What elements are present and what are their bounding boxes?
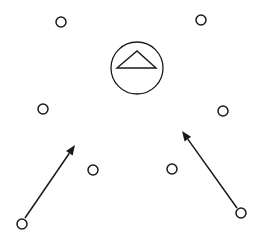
node-circle-n5 [88,165,98,175]
node-circle-n2 [196,15,206,25]
arrow-a-right [182,131,237,208]
node-circle-n8 [236,208,246,218]
arrow-shaft [188,139,237,208]
arrowhead-icon [182,131,191,141]
node-circle-n4 [218,106,228,116]
node-circle-n1 [56,17,66,27]
node-circle-n3 [38,104,48,114]
diagram-canvas [0,0,261,239]
node-circle-n7 [17,219,27,229]
arrows-group [25,131,237,218]
arrow-a-left [25,145,75,218]
node-circle-n6 [167,164,177,174]
arrow-shaft [25,153,69,218]
hub-circle-with-triangle [111,42,163,94]
arrowhead-icon [66,145,75,156]
